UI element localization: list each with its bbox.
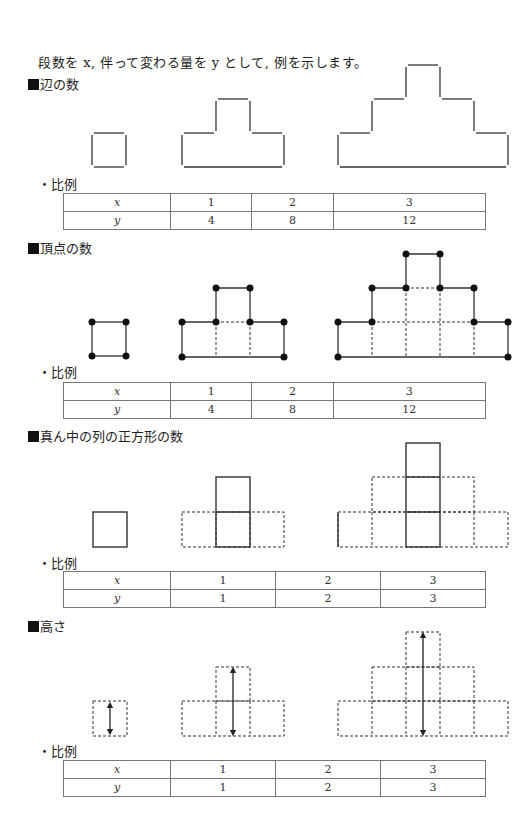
vertices-figure bbox=[89, 251, 512, 361]
height-arrows bbox=[110, 635, 423, 733]
staircase-figures bbox=[0, 0, 531, 818]
vertex-dots bbox=[89, 251, 512, 361]
height-figure bbox=[93, 632, 508, 736]
edges-figure bbox=[92, 65, 508, 167]
middle-column-figure bbox=[93, 443, 508, 547]
